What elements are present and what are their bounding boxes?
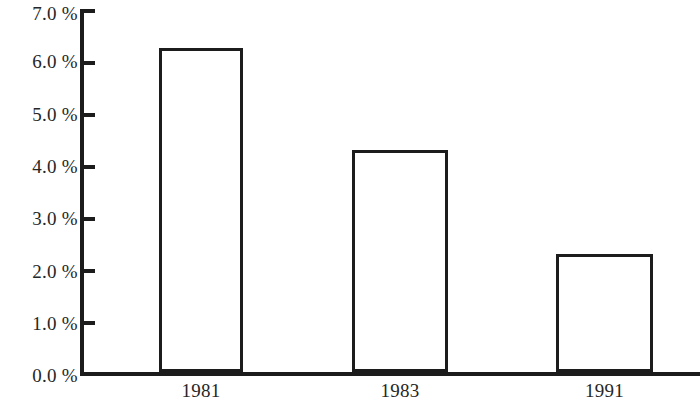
- y-axis-tick-6: [84, 61, 95, 65]
- y-axis-tick-label: 0.0 %: [6, 366, 78, 385]
- bar-1991: [556, 254, 653, 372]
- y-axis-tick-2: [84, 269, 95, 273]
- y-axis-tick-label: 3.0 %: [6, 209, 78, 228]
- y-axis-tick-label: 6.0 %: [6, 52, 78, 71]
- x-axis-tick-label-1981: 1981: [159, 381, 243, 400]
- y-axis-tick-label: 1.0 %: [6, 314, 78, 333]
- y-axis-tick-3: [84, 217, 95, 221]
- y-axis-tick-label: 7.0 %: [6, 4, 78, 23]
- y-axis-tick-1: [84, 321, 95, 325]
- y-axis-tick-label: 4.0 %: [6, 157, 78, 176]
- y-axis-tick-7: [84, 9, 95, 13]
- y-axis-tick-5: [84, 113, 95, 117]
- x-axis-line: [80, 372, 700, 376]
- y-axis-tick-label: 2.0 %: [6, 262, 78, 281]
- y-axis-tick-4: [84, 165, 95, 169]
- x-axis-tick-label-1991: 1991: [556, 381, 653, 400]
- bar-chart: 0.0 % 1.0 % 2.0 % 3.0 % 4.0 % 5.0 % 6.0 …: [0, 0, 700, 411]
- x-axis-tick-label-1983: 1983: [352, 381, 448, 400]
- y-axis-tick-label: 5.0 %: [6, 105, 78, 124]
- bar-1981: [159, 48, 243, 372]
- bar-1983: [352, 150, 448, 372]
